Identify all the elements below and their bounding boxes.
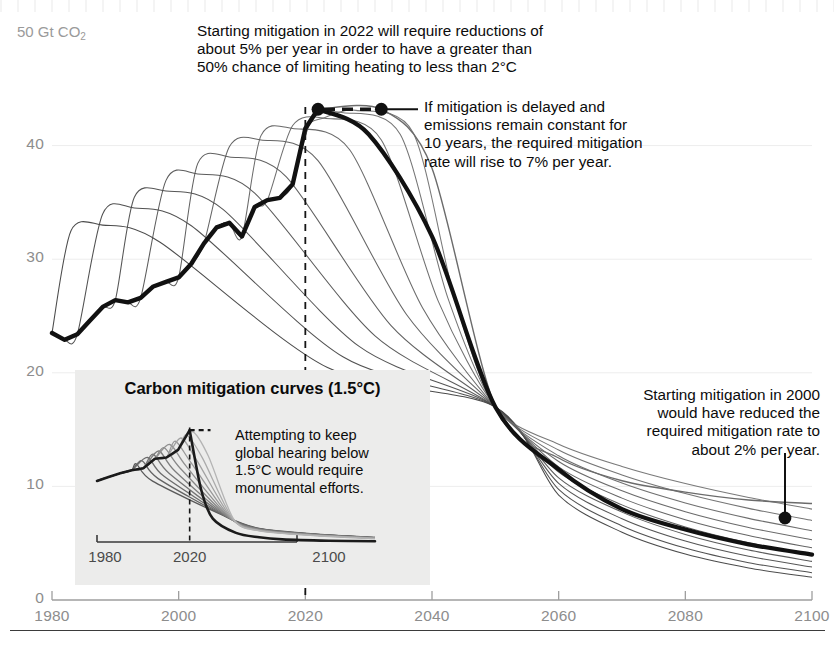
inset-annotation: Attempting to keep global hearing below …: [235, 427, 425, 497]
inset-x-tick-2100: 2100: [303, 548, 355, 565]
x-tick-2000: 2000: [153, 607, 205, 625]
x-tick-1980: 1980: [26, 607, 78, 625]
x-tick-2020: 2020: [279, 607, 331, 625]
inset-x-tick-2020: 2020: [164, 548, 216, 565]
y-tick-30: 30: [0, 248, 44, 266]
x-tick-2080: 2080: [659, 607, 711, 625]
peak-2022-marker: [312, 103, 325, 116]
x-tick-2060: 2060: [533, 607, 585, 625]
delayed-2032-marker: [375, 103, 388, 116]
y-axis-unit-label: 50 Gt CO2: [17, 23, 86, 40]
year-2100-marker: [779, 512, 792, 525]
inset-x-tick-1980: 1980: [79, 548, 131, 565]
x-tick-2040: 2040: [406, 607, 458, 625]
y-tick-40: 40: [0, 135, 44, 153]
inset-panel: Carbon mitigation curves (1.5°C) Attempt…: [75, 370, 430, 585]
y-tick-0: 0: [0, 589, 44, 607]
x-tick-2100: 2100: [786, 607, 834, 625]
historical-emissions-line: [52, 109, 318, 340]
annotation-delayed-mitigation: If mitigation is delayed and emissions r…: [424, 98, 724, 171]
y-tick-10: 10: [0, 475, 44, 493]
bottom-rule: [10, 630, 825, 631]
figure-root: 50 Gt CO2 0 10 20 30 40 1980 2000 2020 2…: [0, 0, 834, 647]
annotation-start-2000: Starting mitigation in 2000 would have r…: [575, 386, 820, 459]
annotation-top-2022: Starting mitigation in 2022 will require…: [197, 22, 557, 77]
y-tick-20: 20: [0, 362, 44, 380]
